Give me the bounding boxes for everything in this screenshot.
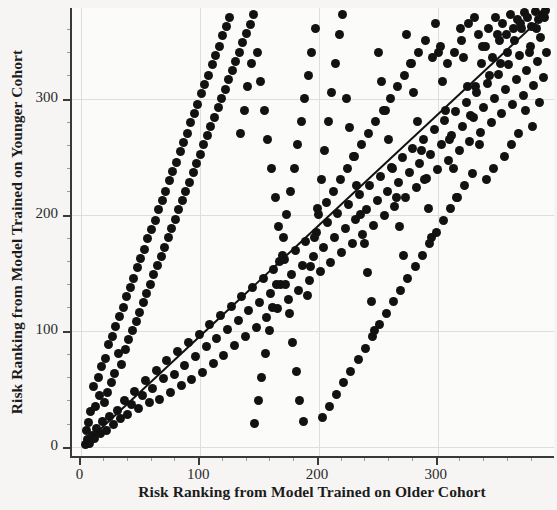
data-point (84, 418, 93, 427)
data-point (342, 94, 351, 103)
data-point (465, 137, 474, 146)
data-point (418, 251, 427, 260)
data-point (236, 129, 245, 138)
data-point (204, 71, 213, 80)
data-point (393, 82, 402, 91)
data-point (186, 118, 195, 127)
data-point (210, 113, 219, 122)
data-point (262, 313, 271, 322)
data-point (218, 31, 227, 40)
data-point (228, 66, 237, 75)
x-axis-minor-tick (483, 458, 484, 461)
data-point (407, 59, 416, 68)
data-point (301, 237, 310, 246)
data-point (529, 81, 538, 90)
data-point (157, 252, 166, 261)
data-point (223, 325, 232, 334)
data-point (164, 233, 173, 242)
data-point (307, 48, 316, 57)
y-axis-minor-tick (67, 145, 70, 146)
data-point (161, 187, 170, 196)
data-point (325, 402, 334, 411)
data-point (539, 73, 548, 82)
data-point (203, 131, 212, 140)
x-axis-tick-label: 300 (406, 466, 466, 483)
data-point (297, 117, 306, 126)
data-point (443, 59, 452, 68)
data-point (240, 106, 249, 115)
data-point (246, 20, 255, 29)
data-point (310, 233, 319, 242)
x-axis-tick-label: 0 (49, 466, 109, 483)
data-point (108, 332, 117, 341)
data-point (176, 147, 185, 156)
data-point (275, 257, 284, 266)
y-axis-tick (63, 99, 70, 101)
data-point (415, 159, 424, 168)
data-point (392, 193, 401, 202)
data-point (343, 164, 352, 173)
data-point (414, 48, 423, 57)
data-point (458, 122, 467, 131)
data-point (305, 276, 314, 285)
data-point (482, 175, 491, 184)
x-axis-minor-tick (103, 458, 104, 461)
x-axis-minor-tick (222, 458, 223, 461)
data-point (149, 270, 158, 279)
plot-canvas (72, 8, 554, 456)
data-point (187, 375, 196, 384)
data-point (344, 200, 353, 209)
x-axis-minor-tick (388, 458, 389, 461)
data-point (217, 94, 226, 103)
data-point (168, 167, 177, 176)
data-point (126, 283, 135, 292)
data-point (536, 33, 545, 42)
gridline-horizontal (72, 331, 554, 332)
data-point (235, 48, 244, 57)
data-point (97, 362, 106, 371)
data-point (91, 402, 100, 411)
y-axis-tick-label: 300 (0, 89, 58, 106)
data-point (527, 22, 536, 31)
data-point (304, 71, 313, 80)
data-point (376, 172, 385, 181)
y-axis-tick-label: 0 (0, 437, 58, 454)
data-point (361, 344, 370, 353)
data-point (290, 164, 299, 173)
data-point (356, 210, 365, 219)
gridline-horizontal (72, 447, 554, 448)
data-point (260, 106, 269, 115)
y-axis-minor-tick (67, 354, 70, 355)
data-point (352, 181, 361, 190)
data-point (507, 140, 516, 149)
data-point (158, 196, 167, 205)
data-point (147, 225, 156, 234)
data-point (132, 317, 141, 326)
gridline-horizontal (72, 99, 554, 100)
data-point (368, 332, 377, 341)
data-point (159, 374, 168, 383)
data-point (409, 88, 418, 97)
data-point (335, 30, 344, 39)
data-point (430, 125, 439, 134)
data-point (140, 245, 149, 254)
data-point (386, 94, 395, 103)
data-point (420, 175, 429, 184)
x-axis-tick (436, 458, 438, 465)
data-point (355, 190, 364, 199)
data-point (403, 274, 412, 283)
data-point (428, 53, 437, 62)
data-point (124, 335, 133, 344)
data-point (89, 382, 98, 391)
data-point (288, 338, 297, 347)
x-axis-minor-tick (293, 458, 294, 461)
data-point (519, 91, 528, 100)
data-point (285, 309, 294, 318)
x-axis-minor-tick (246, 458, 247, 461)
data-point (395, 222, 404, 231)
data-point (139, 298, 148, 307)
data-point (483, 79, 492, 88)
x-axis-tick (79, 458, 81, 465)
data-point (183, 129, 192, 138)
data-point (268, 303, 277, 312)
